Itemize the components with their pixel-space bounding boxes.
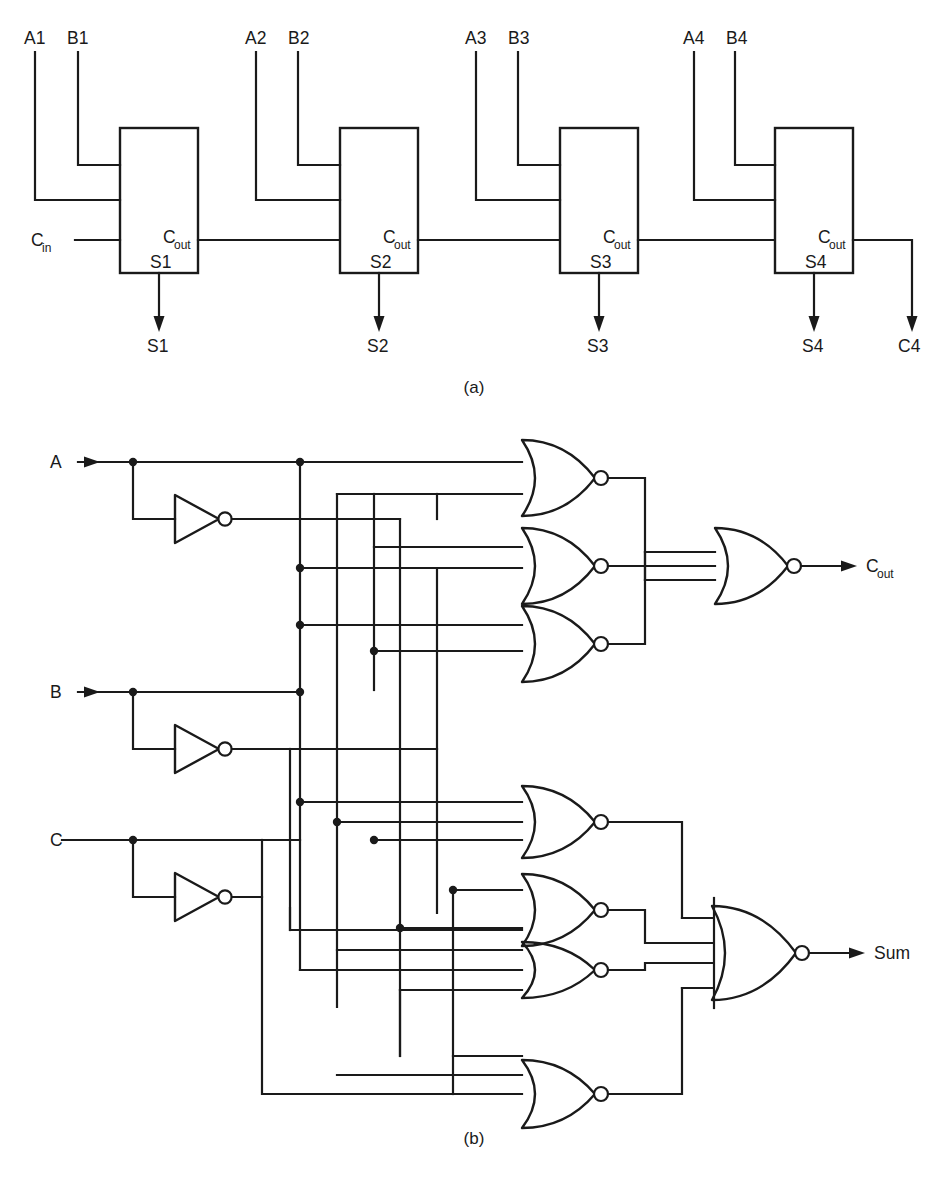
nor-carry-2-bubble <box>594 559 608 573</box>
caption-a: (a) <box>464 378 485 397</box>
inverter-a[interactable] <box>129 458 400 543</box>
wire-b-to-inv <box>133 692 175 749</box>
nor-carry-out-bubble <box>787 559 801 573</box>
nor-sum-1-body[interactable] <box>522 786 595 858</box>
label-sum-output: Sum <box>874 943 910 963</box>
label-s3-inner: S3 <box>590 252 611 272</box>
circuit-figure: A1 B1 C in C out S1 S1 A2 B2 C out S2 S2 <box>0 0 948 1182</box>
label-b3: B3 <box>508 28 529 48</box>
label-cout-3-sub: out <box>614 238 631 252</box>
arrow-cout <box>841 561 857 572</box>
inverter-c-bubble <box>218 890 231 903</box>
inverter-c-triangle <box>175 873 219 921</box>
junction-dot-s1b <box>333 818 341 826</box>
junction-dot-c1 <box>129 836 137 844</box>
label-b1: B1 <box>67 28 88 48</box>
nor-gate-carry-1[interactable] <box>522 440 645 580</box>
part-a-group: A1 B1 C in C out S1 S1 A2 B2 C out S2 S2 <box>24 28 921 397</box>
junction-dot-s1a <box>296 798 304 806</box>
label-a1: A1 <box>24 28 45 48</box>
nor-gate-carry-3[interactable] <box>522 552 645 682</box>
wire-b3-in <box>518 52 560 165</box>
label-s2-inner: S2 <box>370 252 391 272</box>
nor-carry-2-body[interactable] <box>522 528 595 604</box>
label-s3-out: S3 <box>587 336 608 356</box>
nor-carry-1-body[interactable] <box>522 440 595 516</box>
arrow-s4 <box>809 316 820 332</box>
label-a2: A2 <box>245 28 266 48</box>
wire-c-to-inv <box>133 840 175 897</box>
part-b-group: A B C <box>50 440 910 1148</box>
nor-sum-3-body[interactable] <box>522 942 595 998</box>
nor-carry-3-bubble <box>594 637 608 651</box>
junction-dot-s1c <box>370 836 378 844</box>
arrow-sum <box>849 948 865 959</box>
nor-sum-4-body[interactable] <box>522 1060 595 1128</box>
label-cin-sub: in <box>42 241 51 255</box>
label-s4-out: S4 <box>802 336 824 356</box>
nor-gate-sum-2[interactable] <box>522 874 712 946</box>
label-cout-1-sub: out <box>174 238 191 252</box>
wire-nor-sum-2-out <box>608 910 712 943</box>
junction-dot-a1 <box>129 458 137 466</box>
label-s1-inner: S1 <box>150 252 171 272</box>
arrow-c4 <box>907 316 918 332</box>
nor-gate-sum-out[interactable]: Sum <box>682 898 910 1008</box>
label-input-b: B <box>50 682 62 702</box>
nor-sum-2-body[interactable] <box>522 874 595 946</box>
nor-gate-sum-4[interactable] <box>522 988 682 1128</box>
junction-dot-s2c <box>396 924 404 932</box>
wire-c-bar <box>232 897 522 1094</box>
adder-stage-2[interactable]: A2 B2 C out S2 S2 <box>245 28 560 356</box>
nor-carry-3-body[interactable] <box>522 606 595 682</box>
junction-dot-a4 <box>296 621 304 629</box>
inverter-b[interactable] <box>129 688 437 773</box>
arrow-s2 <box>374 316 385 332</box>
nor-sum-3-bubble <box>594 963 608 977</box>
arrow-in-b <box>84 687 100 698</box>
nor-carry-1-bubble <box>594 471 608 485</box>
wire-nor-sum-1-out <box>608 822 682 918</box>
caption-b: (b) <box>464 1129 485 1148</box>
nor-sum-2-bubble <box>594 903 608 917</box>
label-c4-out: C4 <box>898 336 921 356</box>
arrow-in-a <box>84 457 100 468</box>
wire-b4-in <box>735 52 775 165</box>
label-s1-out: S1 <box>147 336 168 356</box>
label-s2-out: S2 <box>367 336 388 356</box>
inverter-a-bubble <box>218 512 231 525</box>
nor-carry-out-body[interactable] <box>715 528 788 604</box>
wire-a-to-inv <box>133 462 175 519</box>
label-cout-2-sub: out <box>394 238 411 252</box>
label-input-c: C <box>50 830 63 850</box>
adder-stage-4[interactable]: A4 B4 C out S4 S4 C4 <box>683 28 921 356</box>
label-cout-4-sub: out <box>829 238 846 252</box>
wire-b2-in <box>298 52 340 165</box>
wire-nor-sum-3-out <box>608 963 712 970</box>
carry-input-wires <box>296 462 522 690</box>
junction-dot-a3 <box>296 564 304 572</box>
label-a4: A4 <box>683 28 705 48</box>
arrow-s1 <box>154 316 165 332</box>
nor-gate-carry-2[interactable] <box>522 528 715 604</box>
adder-stage-3[interactable]: A3 B3 C out S3 S3 <box>465 28 775 356</box>
nor-gate-sum-3[interactable] <box>522 942 712 998</box>
circuit-svg: A1 B1 C in C out S1 S1 A2 B2 C out S2 S2 <box>0 0 948 1182</box>
adder-stage-1[interactable]: A1 B1 C in C out S1 S1 <box>24 28 340 356</box>
nor-sum-out-bubble <box>795 946 809 960</box>
label-s4-inner: S4 <box>805 252 827 272</box>
nor-gate-carry-out[interactable]: C out <box>715 528 894 604</box>
wire-c4-out <box>853 240 912 320</box>
arrow-s3 <box>594 316 605 332</box>
sum-input-wires <box>290 798 522 1094</box>
junction-dot-b1 <box>129 688 137 696</box>
label-b2: B2 <box>288 28 309 48</box>
inverter-a-triangle <box>175 495 219 543</box>
inverter-b-bubble <box>218 742 231 755</box>
wire-b1-in <box>78 52 120 165</box>
nor-sum-out-body[interactable] <box>712 906 796 1000</box>
nor-gate-sum-1[interactable] <box>522 786 682 918</box>
label-b4: B4 <box>726 28 748 48</box>
inverter-b-triangle <box>175 725 219 773</box>
wire-sum2-in2 <box>290 908 522 930</box>
